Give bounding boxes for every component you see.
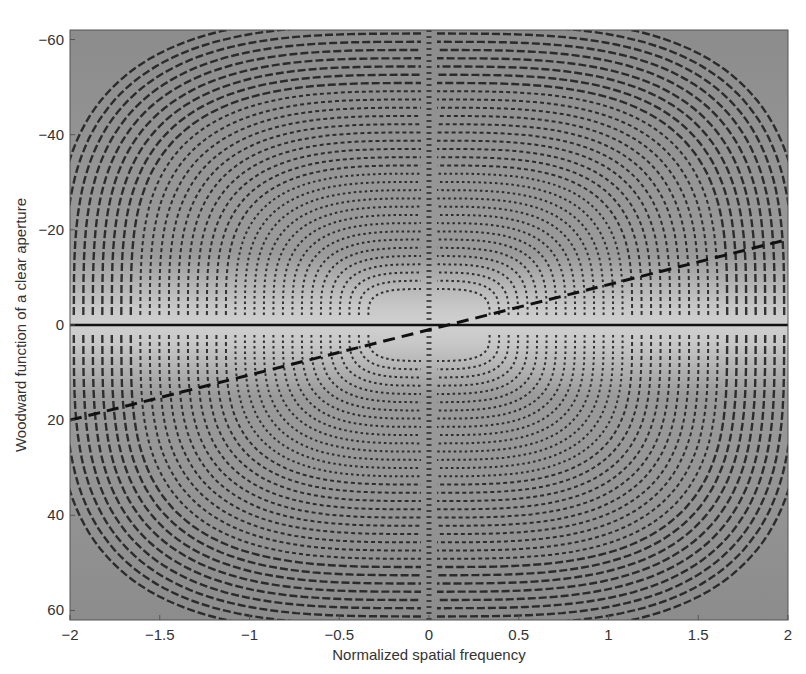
y-axis-label: Woodward function of a clear aperture [12,198,29,452]
woodward-function-chart: −2−1.5−1−0.500.511.52 −60−40−200204060 N… [0,0,806,674]
y-tick-label: 60 [47,601,64,618]
x-tick-label: 0.5 [508,626,529,643]
x-tick-label: −1.5 [145,626,175,643]
plot-area [55,17,803,633]
y-tick-label: 20 [47,411,64,428]
y-tick-label: −60 [39,31,64,48]
x-tick-label: 1 [604,626,612,643]
y-tick-label: 0 [56,316,64,333]
x-tick-label: −1 [241,626,258,643]
x-tick-label: −2 [61,626,78,643]
x-tick-label: 2 [784,626,792,643]
y-tick-label: −20 [39,221,64,238]
x-tick-label: −0.5 [324,626,354,643]
y-tick-label: −40 [39,126,64,143]
x-axis-label: Normalized spatial frequency [332,646,526,663]
y-tick-label: 40 [47,506,64,523]
x-tick-label: 1.5 [688,626,709,643]
x-tick-label: 0 [425,626,433,643]
